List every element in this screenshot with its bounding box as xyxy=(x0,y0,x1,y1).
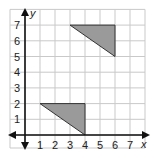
y-tick-label: 1 xyxy=(14,113,20,125)
y-tick-label: 3 xyxy=(14,82,20,94)
x-tick-label: 4 xyxy=(82,139,88,151)
y-axis-arrow-down-icon xyxy=(21,142,29,150)
x-tick-label: 1 xyxy=(37,139,43,151)
x-tick-label: 3 xyxy=(67,139,73,151)
y-tick-label: 2 xyxy=(14,98,20,110)
x-tick-label: 5 xyxy=(97,139,103,151)
x-tick-label: 6 xyxy=(112,139,118,151)
x-tick-label: 7 xyxy=(127,139,133,151)
y-tick-label: 5 xyxy=(14,51,20,63)
shapes xyxy=(40,25,115,135)
coordinate-plane: 12345671234567 x y xyxy=(0,0,154,158)
y-tick-label: 6 xyxy=(14,35,20,47)
y-tick-label: 7 xyxy=(14,19,20,31)
y-tick-label: 4 xyxy=(14,66,20,78)
x-axis-arrow-left-icon xyxy=(8,131,16,139)
y-axis-label: y xyxy=(29,7,37,19)
x-axis-label: x xyxy=(140,138,147,150)
x-tick-label: 2 xyxy=(52,139,58,151)
